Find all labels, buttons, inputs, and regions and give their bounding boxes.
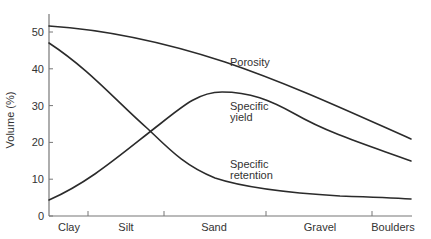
label-specific-retention-line2: retention bbox=[230, 169, 273, 181]
y-tick-30: 30 bbox=[32, 100, 44, 112]
category-clay: Clay bbox=[58, 221, 81, 233]
x-category-labels: Clay Silt Sand Gravel Boulders bbox=[58, 221, 415, 233]
y-tick-20: 20 bbox=[32, 136, 44, 148]
category-boulders: Boulders bbox=[371, 221, 415, 233]
line-chart: Volume (%) 0 10 20 30 40 50 Clay Silt Sa… bbox=[0, 0, 431, 239]
x-ticks bbox=[88, 211, 372, 216]
y-tick-0: 0 bbox=[38, 210, 44, 222]
y-tick-50: 50 bbox=[32, 26, 44, 38]
label-specific-yield-line2: yield bbox=[230, 111, 253, 123]
label-porosity: Porosity bbox=[230, 56, 270, 68]
category-gravel: Gravel bbox=[304, 221, 336, 233]
y-tick-40: 40 bbox=[32, 63, 44, 75]
y-tick-labels: 0 10 20 30 40 50 bbox=[32, 26, 44, 222]
y-axis-label: Volume (%) bbox=[4, 92, 16, 149]
category-sand: Sand bbox=[201, 221, 227, 233]
y-tick-10: 10 bbox=[32, 173, 44, 185]
category-silt: Silt bbox=[118, 221, 133, 233]
series-labels: Porosity Specific yield Specific retenti… bbox=[230, 56, 273, 181]
